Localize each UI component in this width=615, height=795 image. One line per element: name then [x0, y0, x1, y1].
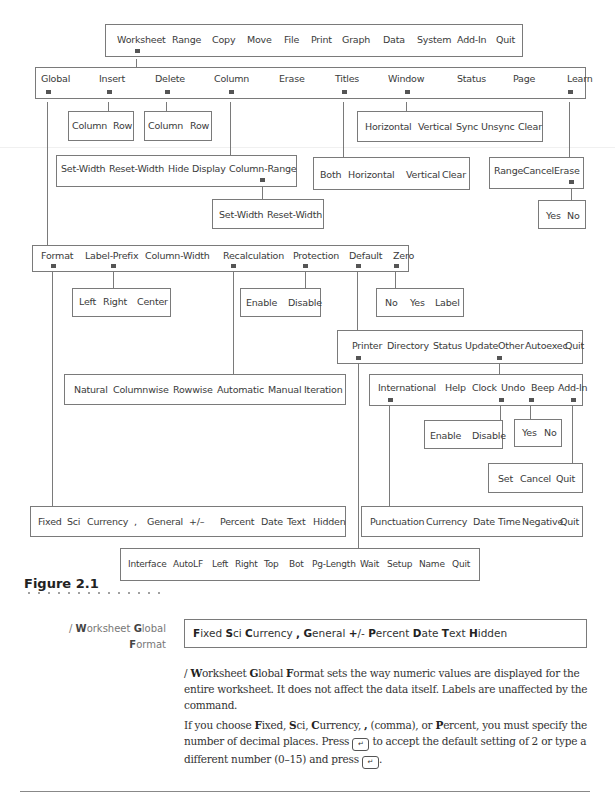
menu-item-move[interactable]: Move: [247, 34, 272, 45]
menu-item-bot[interactable]: Bot: [289, 559, 304, 569]
menu-item-data[interactable]: Data: [383, 34, 405, 45]
menu-item-disable[interactable]: Disable: [472, 430, 506, 441]
menu-item-disable[interactable]: Disable: [288, 297, 322, 308]
menu-item-add-in[interactable]: Add-In: [558, 382, 587, 393]
menu-item-column[interactable]: Column: [214, 73, 249, 84]
menu-item-label[interactable]: Label: [435, 297, 460, 308]
menu-item-vertical[interactable]: Vertical: [406, 169, 440, 180]
menu-item-protection[interactable]: Protection: [293, 250, 339, 261]
menu-item-right[interactable]: Right: [235, 559, 258, 569]
menu-item-column-width[interactable]: Column-Width: [145, 250, 210, 261]
menu-item-beep[interactable]: Beep: [531, 382, 554, 393]
menu-item-copy[interactable]: Copy: [212, 34, 235, 45]
menu-item-interface[interactable]: Interface: [128, 559, 167, 569]
menu-item-currency[interactable]: Currency: [87, 516, 128, 527]
menu-item-set-width[interactable]: Set-Width: [219, 209, 263, 220]
menu-item-column[interactable]: Column: [148, 120, 183, 131]
menu-item-erase[interactable]: Erase: [554, 165, 580, 176]
menu-item-print[interactable]: Print: [311, 34, 332, 45]
menu-item-plus-minus[interactable]: +/–: [189, 516, 204, 527]
menu-item-default[interactable]: Default: [349, 250, 382, 261]
menu-item-global[interactable]: Global: [41, 73, 70, 84]
menu-item-update[interactable]: Update: [465, 340, 498, 351]
menu-item-autoexec[interactable]: Autoexec: [525, 340, 568, 351]
menu-item-page[interactable]: Page: [513, 73, 535, 84]
menu-item-set[interactable]: Set: [498, 473, 513, 484]
menu-item-text[interactable]: Text: [287, 516, 305, 527]
menu-item-no[interactable]: No: [385, 297, 398, 308]
menu-item-yes[interactable]: Yes: [522, 427, 537, 438]
menu-item-date[interactable]: Date: [261, 516, 283, 527]
menu-item-clear[interactable]: Clear: [442, 169, 466, 180]
menu-item-zero[interactable]: Zero: [393, 250, 414, 261]
menu-item-reset-width[interactable]: Reset-Width: [109, 163, 164, 174]
menu-item-row[interactable]: Row: [113, 120, 132, 131]
menu-item-left[interactable]: Left: [79, 296, 96, 307]
menu-item-iteration[interactable]: Iteration: [304, 384, 343, 395]
menu-item-label-prefix[interactable]: Label-Prefix: [85, 250, 138, 261]
menu-item-both[interactable]: Both: [320, 169, 341, 180]
menu-item-quit[interactable]: Quit: [496, 34, 515, 45]
menu-item-yes[interactable]: Yes: [410, 297, 425, 308]
menu-item-time[interactable]: Time: [498, 516, 520, 527]
menu-item-negative[interactable]: Negative: [522, 516, 563, 527]
menu-item-format[interactable]: Format: [41, 250, 73, 261]
menu-item-autolf[interactable]: AutoLF: [173, 559, 203, 569]
menu-item-yes[interactable]: Yes: [546, 210, 561, 221]
menu-item-learn[interactable]: Learn: [567, 73, 593, 84]
menu-item-punctuation[interactable]: Punctuation: [370, 516, 424, 527]
menu-item-cancel[interactable]: Cancel: [520, 473, 551, 484]
menu-item-clear[interactable]: Clear: [518, 121, 542, 132]
menu-item-no[interactable]: No: [544, 427, 557, 438]
menu-item-sci[interactable]: Sci: [67, 516, 80, 527]
menu-item-window[interactable]: Window: [388, 73, 424, 84]
menu-item-directory[interactable]: Directory: [387, 340, 429, 351]
menu-item-left[interactable]: Left: [212, 559, 228, 569]
menu-item-cancel[interactable]: Cancel: [523, 165, 554, 176]
menu-item-date[interactable]: Date: [473, 516, 495, 527]
menu-item-columnwise[interactable]: Columnwise: [113, 384, 169, 395]
menu-item-currency[interactable]: Currency: [426, 516, 467, 527]
menu-item-add-in[interactable]: Add-In: [457, 34, 486, 45]
menu-item-range[interactable]: Range: [172, 34, 201, 45]
menu-item-manual[interactable]: Manual: [268, 384, 301, 395]
menu-item-pg-length[interactable]: Pg-Length: [312, 559, 356, 569]
menu-item-status[interactable]: Status: [433, 340, 462, 351]
menu-item-name[interactable]: Name: [419, 559, 445, 569]
menu-item-row[interactable]: Row: [190, 120, 209, 131]
menu-item-rowwise[interactable]: Rowwise: [173, 384, 213, 395]
menu-item-titles[interactable]: Titles: [335, 73, 359, 84]
menu-item-column[interactable]: Column: [72, 120, 107, 131]
menu-item-horizontal[interactable]: Horizontal: [365, 121, 412, 132]
menu-item-quit[interactable]: Quit: [452, 559, 470, 569]
menu-item-automatic[interactable]: Automatic: [217, 384, 264, 395]
menu-item-file[interactable]: File: [284, 34, 299, 45]
menu-item-international[interactable]: International: [378, 382, 436, 393]
menu-item-wait[interactable]: Wait: [360, 559, 379, 569]
menu-item-horizontal[interactable]: Horizontal: [348, 169, 395, 180]
menu-item-setup[interactable]: Setup: [387, 559, 412, 569]
menu-item-hide[interactable]: Hide: [168, 163, 189, 174]
menu-item-percent[interactable]: Percent: [220, 516, 254, 527]
menu-item-reset-width[interactable]: Reset-Width: [267, 209, 322, 220]
menu-item-printer[interactable]: Printer: [352, 340, 382, 351]
menu-item-system[interactable]: System: [417, 34, 451, 45]
menu-item-other[interactable]: Other: [498, 340, 524, 351]
menu-item-comma[interactable]: ,: [134, 516, 137, 527]
menu-item-center[interactable]: Center: [137, 296, 168, 307]
menu-item-erase[interactable]: Erase: [279, 73, 305, 84]
menu-item-undo[interactable]: Undo: [501, 382, 525, 393]
menu-item-delete[interactable]: Delete: [155, 73, 185, 84]
menu-item-insert[interactable]: Insert: [99, 73, 125, 84]
menu-item-top[interactable]: Top: [264, 559, 279, 569]
menu-item-vertical[interactable]: Vertical: [418, 121, 452, 132]
menu-item-graph[interactable]: Graph: [342, 34, 370, 45]
menu-item-no[interactable]: No: [567, 210, 580, 221]
menu-item-display[interactable]: Display: [192, 163, 226, 174]
menu-item-hidden[interactable]: Hidden: [313, 516, 346, 527]
menu-item-fixed[interactable]: Fixed: [38, 516, 62, 527]
menu-item-quit[interactable]: Quit: [556, 473, 575, 484]
menu-item-clock[interactable]: Clock: [472, 382, 497, 393]
menu-item-range[interactable]: Range: [494, 165, 523, 176]
menu-item-recalculation[interactable]: Recalculation: [223, 250, 284, 261]
